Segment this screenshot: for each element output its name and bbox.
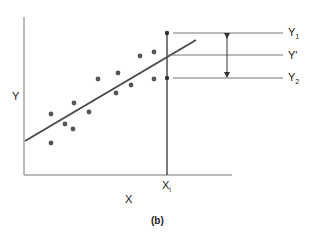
x-axis-label: X [125, 193, 133, 205]
xi-label: Xi [162, 179, 171, 193]
data-point [63, 122, 68, 127]
y1-point [165, 31, 169, 35]
y2-point [165, 76, 169, 80]
data-point [87, 110, 92, 115]
regression-diagram: Y X Xi Y1 Y' Y2 (b) [0, 0, 309, 232]
y2-label: Y2 [288, 71, 299, 85]
scatter-points [49, 50, 157, 146]
data-point [72, 101, 77, 106]
data-point [152, 77, 157, 82]
data-point [49, 141, 54, 146]
yprime-label: Y' [288, 49, 297, 61]
data-point [116, 71, 121, 76]
data-point [96, 77, 101, 82]
figure-caption: (b) [151, 215, 164, 226]
data-point [152, 50, 157, 55]
data-point [71, 127, 76, 132]
data-point [138, 54, 143, 59]
data-point [114, 91, 119, 96]
data-point [129, 83, 134, 88]
y-axis-label: Y [12, 90, 20, 102]
y1-label: Y1 [288, 26, 299, 40]
data-point [49, 112, 54, 117]
